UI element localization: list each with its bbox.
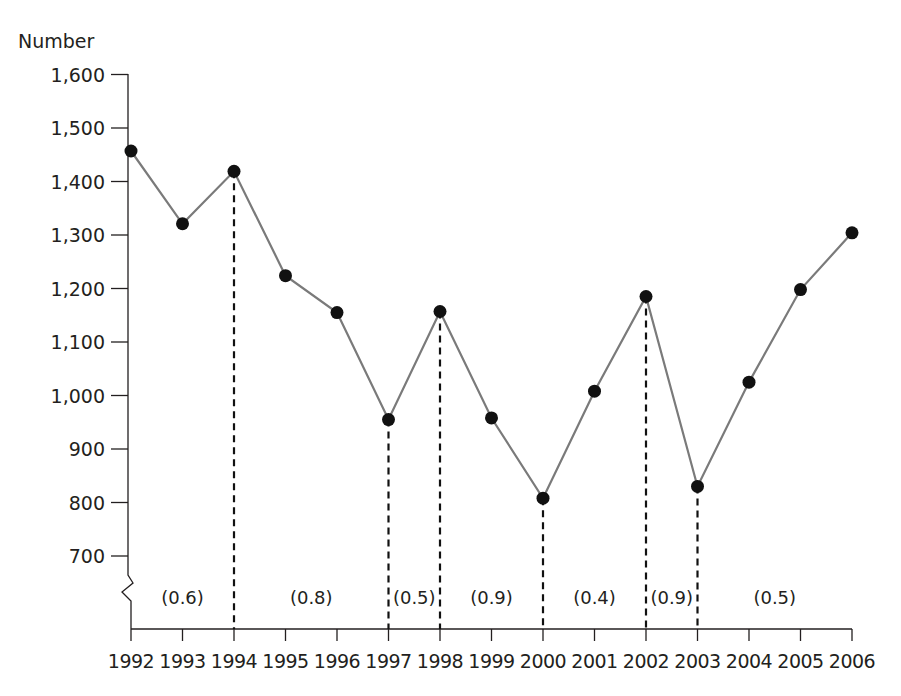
data-point	[846, 226, 859, 239]
x-tick-label: 2003	[674, 650, 720, 672]
y-tick-label: 1,500	[51, 117, 105, 139]
data-point	[125, 145, 138, 158]
y-tick-label: 900	[69, 438, 105, 460]
data-point	[794, 283, 807, 296]
x-tick-label: 2000	[520, 650, 566, 672]
x-tick-label: 1992	[108, 650, 154, 672]
data-point	[537, 492, 550, 505]
x-tick-label: 2004	[726, 650, 773, 672]
y-tick-label: 1,000	[51, 385, 105, 407]
x-tick-label: 1998	[417, 650, 463, 672]
period-annotation: (0.9)	[470, 587, 513, 608]
period-annotation: (0.8)	[290, 587, 333, 608]
y-tick-label: 1,200	[51, 278, 105, 300]
line-chart: 1,6001,5001,4001,3001,2001,1001,00090080…	[0, 0, 901, 696]
x-tick-label: 2002	[623, 650, 669, 672]
period-annotation: (0.9)	[650, 587, 693, 608]
data-point	[743, 376, 756, 389]
data-point	[382, 413, 395, 426]
x-tick-label: 1995	[262, 650, 308, 672]
y-tick-label: 700	[69, 545, 105, 567]
x-tick-label: 1997	[365, 650, 411, 672]
x-tick-label: 1993	[159, 650, 205, 672]
y-tick-label: 1,100	[51, 331, 105, 353]
y-tick-label: 800	[69, 492, 105, 514]
data-point	[228, 165, 241, 178]
data-point	[588, 385, 601, 398]
data-point	[331, 306, 344, 319]
data-point	[434, 305, 447, 318]
x-tick-label: 1996	[314, 650, 360, 672]
y-tick-label: 1,300	[51, 224, 105, 246]
data-line	[131, 151, 852, 498]
period-annotation: (0.6)	[161, 587, 204, 608]
data-point	[485, 411, 498, 424]
x-tick-label: 1999	[468, 650, 514, 672]
y-tick-label: 1,600	[51, 64, 105, 86]
data-point	[176, 217, 189, 230]
x-tick-label: 2005	[777, 650, 823, 672]
x-tick-label: 2001	[571, 650, 617, 672]
period-annotation: (0.5)	[753, 587, 796, 608]
y-tick-label: 1,400	[51, 171, 105, 193]
data-point	[279, 269, 292, 282]
x-tick-label: 1994	[211, 650, 258, 672]
x-tick-label: 2006	[829, 650, 875, 672]
data-point	[640, 290, 653, 303]
period-annotation: (0.5)	[393, 587, 436, 608]
period-annotation: (0.4)	[573, 587, 616, 608]
data-point	[691, 480, 704, 493]
